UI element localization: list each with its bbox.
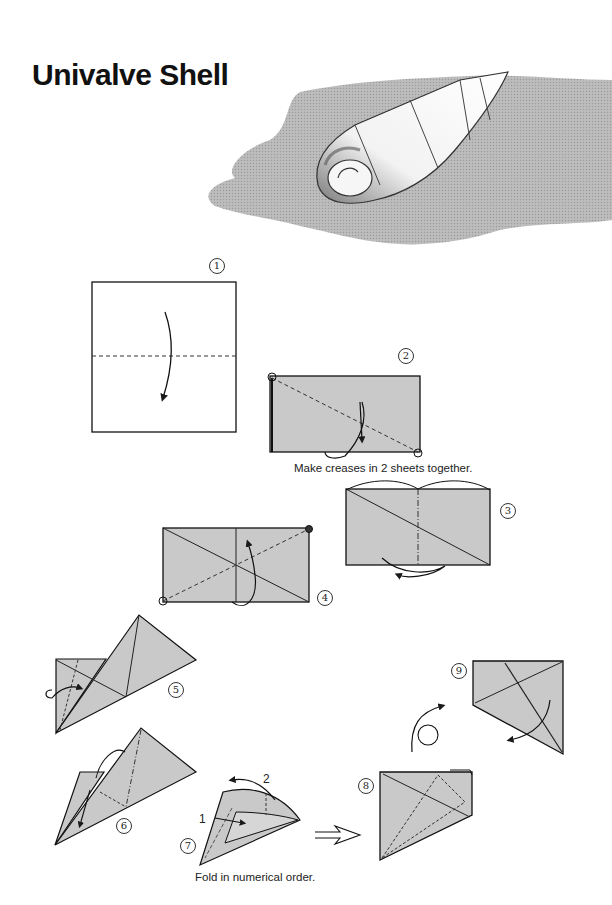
- step-1-diagram: [92, 282, 236, 432]
- step-number-7: 7: [180, 838, 196, 854]
- step-3-diagram: [346, 481, 490, 577]
- step-7-diagram: [200, 779, 300, 865]
- step-number-6: 6: [116, 818, 132, 834]
- step-5-diagram: [46, 615, 196, 733]
- step-2-diagram: [268, 373, 422, 458]
- fold-label-2: 2: [263, 772, 270, 786]
- step-number-9: 9: [451, 663, 467, 679]
- hero-shell-illustration: [0, 0, 612, 905]
- step-number-5: 5: [168, 682, 184, 698]
- step-4-diagram: [159, 526, 313, 606]
- step-number-4: 4: [317, 590, 333, 606]
- step-8-diagram: [380, 770, 472, 860]
- step-7-caption: Fold in numerical order.: [195, 871, 315, 883]
- step-number-8: 8: [358, 778, 374, 794]
- turn-over-icon: [412, 706, 442, 752]
- step-number-3: 3: [500, 503, 516, 519]
- fold-label-1: 1: [199, 812, 206, 826]
- next-arrow-icon: [315, 826, 360, 844]
- step-9-diagram: [473, 661, 563, 754]
- step-number-1: 1: [209, 258, 225, 274]
- step-number-2: 2: [398, 348, 414, 364]
- step-2-caption: Make creases in 2 sheets together.: [294, 462, 472, 474]
